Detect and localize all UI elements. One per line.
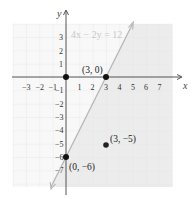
- y-tick: −3: [55, 113, 64, 122]
- label-0-neg6: (0, −6): [69, 162, 95, 173]
- y-tick: 2: [59, 47, 63, 56]
- y-tick: −6: [55, 153, 64, 162]
- point-0-neg6: [63, 154, 69, 160]
- x-axis-label: x: [182, 80, 188, 91]
- y-tick: 1: [59, 60, 63, 69]
- x-tick: −2: [36, 83, 45, 92]
- y-tick: −2: [55, 100, 64, 109]
- x-tick: 5: [131, 83, 135, 92]
- label-3-neg5: (3, −5): [110, 134, 136, 145]
- point-3-neg5: [103, 142, 109, 148]
- y-tick: −5: [55, 140, 64, 149]
- x-tick: 3: [104, 83, 108, 92]
- label-3-0: (3, 0): [82, 65, 103, 76]
- equation-label: 4x − 2y = 12: [71, 29, 122, 40]
- x-tick: −3: [22, 83, 31, 92]
- x-tick: 2: [91, 83, 95, 92]
- x-tick: 4: [118, 83, 122, 92]
- x-tick: 1: [78, 83, 82, 92]
- x-tick: 6: [144, 83, 148, 92]
- point-origin: [63, 74, 69, 80]
- graph: x y −3 −2 −1 1 2 3 4 5 6 7 3 2 1 −1 −2 −…: [0, 0, 194, 199]
- y-tick: 3: [59, 33, 63, 42]
- y-tick: −1: [55, 86, 64, 95]
- y-tick: −4: [55, 126, 64, 135]
- point-3-0: [103, 74, 109, 80]
- x-tick: 7: [158, 83, 162, 92]
- y-axis-label: y: [56, 8, 62, 19]
